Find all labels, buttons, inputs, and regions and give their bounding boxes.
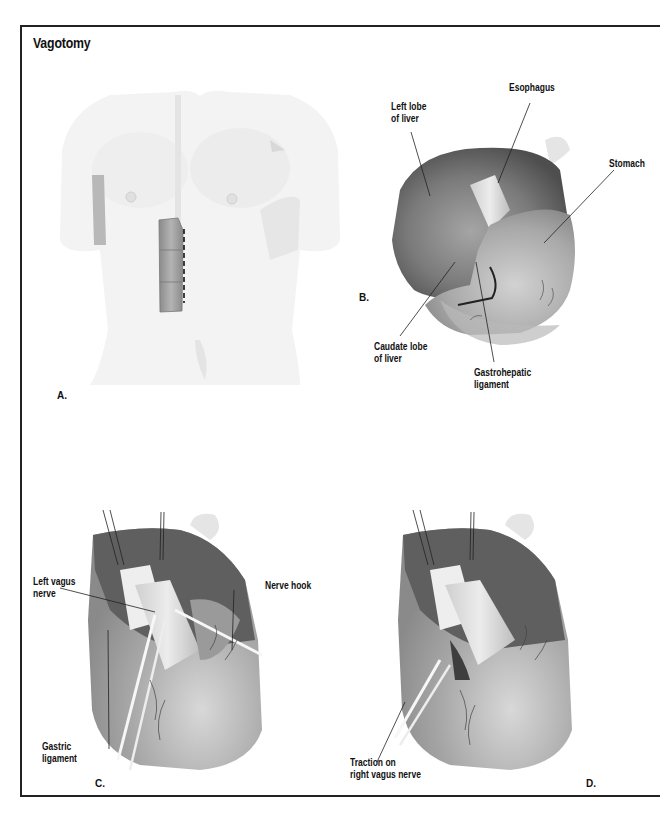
panel-c-nerve-hook-illustration	[60, 510, 262, 770]
label-left-lobe-of-liver: Left lobe of liver	[391, 101, 426, 125]
panel-d-letter: D.	[586, 778, 596, 789]
panel-d-traction-illustration	[377, 510, 572, 770]
label-stomach: Stomach	[609, 158, 645, 170]
label-esophagus: Esophagus	[509, 82, 555, 94]
label-traction-on-right-vagus-nerve: Traction on right vagus nerve	[350, 757, 421, 781]
label-gastrohepatic-ligament: Gastrohepatic ligament	[474, 367, 531, 391]
label-caudate-lobe-of-liver: Caudate lobe of liver	[374, 341, 427, 365]
label-left-vagus-nerve: Left vagus nerve	[33, 576, 76, 600]
label-gastric-ligament: Gastric ligament	[42, 741, 77, 765]
panel-c-letter: C.	[95, 778, 105, 789]
label-nerve-hook: Nerve hook	[265, 580, 311, 592]
panel-a-torso-illustration	[60, 91, 340, 385]
panel-b-letter: B.	[359, 292, 369, 303]
panel-b-liver-stomach-illustration	[392, 103, 614, 362]
panel-a-letter: A.	[57, 390, 67, 401]
